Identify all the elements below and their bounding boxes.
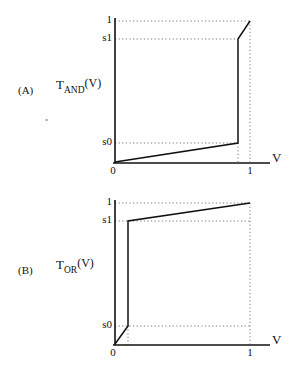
panel-a: (A) TAND(V) 1 s1 s0 0 1 V <box>0 0 290 185</box>
figure-container: (A) TAND(V) 1 s1 s0 0 1 V (B) <box>0 0 290 369</box>
panel-a-plot <box>0 0 290 185</box>
panel-b: (B) TOR(V) 1 s1 s0 0 1 V <box>0 184 290 369</box>
panel-a-curve <box>115 21 250 162</box>
panel-b-plot <box>0 184 290 369</box>
panel-a-artifact-speck <box>45 119 48 121</box>
panel-b-curve <box>115 203 250 344</box>
